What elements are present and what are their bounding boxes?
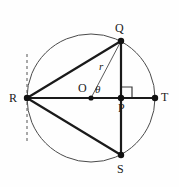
segment-RQ xyxy=(27,41,121,98)
vertex-dot-R xyxy=(24,95,30,101)
vertex-label-Q: Q xyxy=(115,22,124,34)
vertex-label-T: T xyxy=(161,91,168,103)
segment-RS xyxy=(27,98,121,155)
vertex-label-R: R xyxy=(9,92,17,104)
angle-label-theta: θ xyxy=(95,84,100,95)
vertex-label-O: O xyxy=(78,82,87,94)
vertex-label-P: P xyxy=(118,102,125,114)
radius-label-r: r xyxy=(99,61,103,72)
vertex-dot-Q xyxy=(118,38,124,44)
vertex-dot-S xyxy=(118,152,124,158)
vertex-label-S: S xyxy=(117,163,124,175)
vertex-dot-O xyxy=(88,95,93,100)
figure-canvas xyxy=(0,0,179,187)
geometry-figure: Q R T O P S r θ xyxy=(0,0,179,187)
vertex-dot-T xyxy=(152,95,158,101)
